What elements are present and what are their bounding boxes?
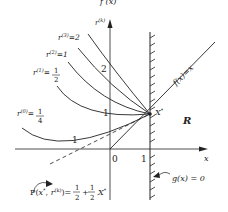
curve-label-r0-den: 4 xyxy=(38,117,43,125)
curve-label-r2: r(2)=1 xyxy=(46,49,68,59)
y-mark-1: 1 xyxy=(103,108,109,118)
objective-line xyxy=(110,42,215,149)
curve-label-r3: r(3)=2 xyxy=(58,32,80,42)
svg-text:X*: X* xyxy=(97,187,107,197)
curve-label-r1-den: 2 xyxy=(54,76,58,84)
svg-text:1: 1 xyxy=(75,184,79,192)
y-axis-arrow-icon xyxy=(108,19,113,28)
formula-pointer-arrow-icon xyxy=(46,180,53,187)
y-mark-2: 2 xyxy=(101,64,107,74)
curve-r1 xyxy=(68,62,150,114)
penalty-function-diagram: f (x) x r(k) 0 1 f(x)=x xyxy=(0,0,228,212)
y-axis-label: r(k) xyxy=(95,17,105,27)
optimum-label: X* xyxy=(154,107,164,117)
svg-text:2: 2 xyxy=(75,194,79,202)
penalty-formula: P(x*, r(k))= xyxy=(30,187,71,197)
objective-line-label: f(x)=x xyxy=(170,63,195,88)
region-label: R xyxy=(182,115,191,126)
x-tick-1: 1 xyxy=(141,154,147,164)
penalty-curves xyxy=(22,34,150,141)
svg-text:1: 1 xyxy=(90,184,94,192)
constraint-label: g(x) = 0 xyxy=(172,174,205,183)
constraint-pointer xyxy=(158,172,170,176)
origin-label: 0 xyxy=(112,154,118,164)
min-point-label: 1 xyxy=(72,135,78,145)
constraint-pointer-arrow-icon xyxy=(153,172,160,178)
curve-label-r1: r(1)= xyxy=(33,67,50,77)
x-axis-arrow-icon xyxy=(199,147,208,152)
top-caption: f (x) xyxy=(99,0,116,6)
curve-r2 xyxy=(78,48,150,114)
curve-label-r0: r(0)= xyxy=(17,108,34,118)
svg-text:2: 2 xyxy=(90,194,94,202)
svg-text:+: + xyxy=(82,188,89,197)
curve-label-r0-num: 1 xyxy=(38,108,42,116)
optimum-point xyxy=(148,112,152,116)
curve-label-r1-num: 1 xyxy=(54,67,58,75)
curve-r3 xyxy=(88,34,150,114)
x-axis-label: x xyxy=(204,154,209,163)
